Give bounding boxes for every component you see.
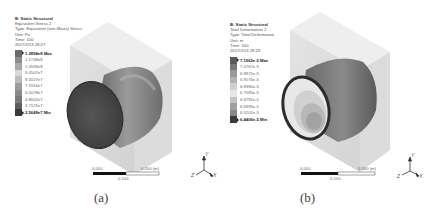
model-viewport[interactable]: [218, 0, 435, 222]
axis-y-label: Y: [205, 151, 208, 157]
axis-x-label: X: [419, 173, 422, 179]
scale-bar-light: [338, 172, 375, 175]
axis-x-label: X: [213, 172, 216, 178]
scale-bar-dark: [301, 172, 338, 175]
scale-mid: 0.100: [330, 176, 340, 181]
scale-start: 0.000: [300, 166, 310, 171]
panel-total-deformation: B: Static Structural Total Deformation 2…: [218, 0, 435, 222]
axis-triad-icon: [196, 156, 213, 177]
scale-mid: 0.100: [118, 176, 128, 181]
axis-y-label: Y: [411, 152, 414, 158]
scale-end: 0.300 (m): [358, 166, 376, 171]
figure-caption: (b): [300, 190, 315, 206]
scale-bar-light: [126, 172, 159, 175]
panel-equivalent-stress: B: Static Structural Equivalent Stress 2…: [0, 0, 217, 222]
scale-end: 0.200 (m): [141, 166, 159, 171]
axis-triad-icon: [402, 157, 419, 177]
axis-z-label: Z: [397, 173, 400, 179]
figure-caption: (a): [94, 190, 108, 206]
axis-z-label: Z: [191, 172, 194, 178]
deformation-zone-3: [306, 112, 322, 130]
scale-start: 0.000: [92, 166, 102, 171]
scale-bar-dark: [93, 172, 126, 175]
model-viewport[interactable]: [0, 0, 217, 222]
